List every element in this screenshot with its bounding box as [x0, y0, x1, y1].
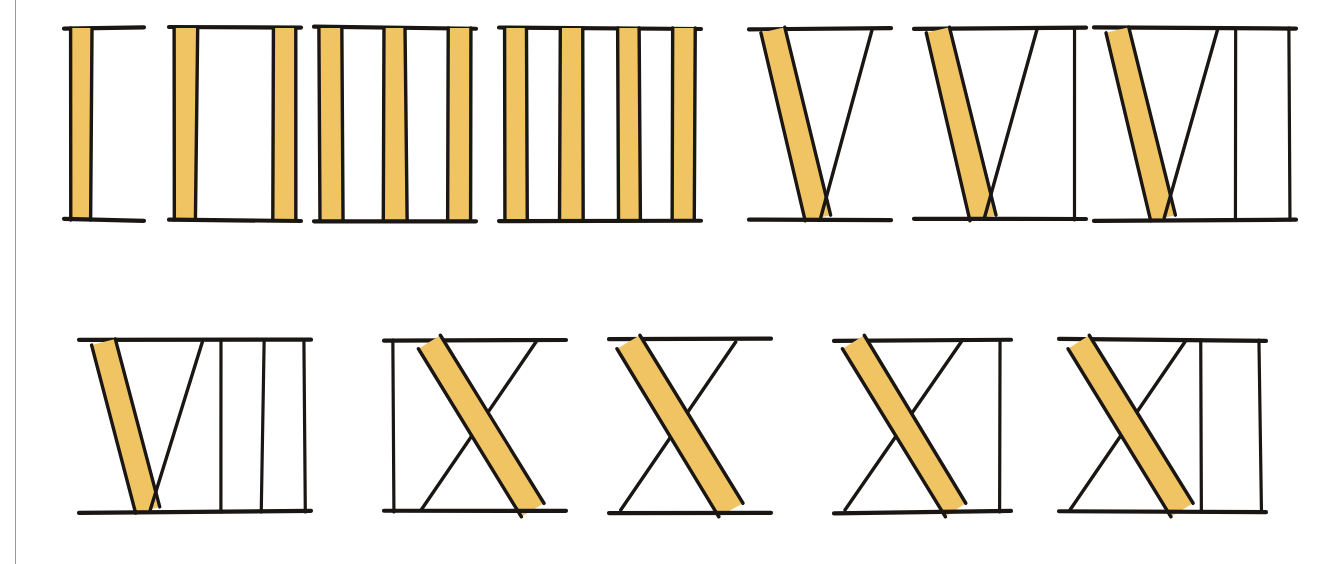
- roman-numeral-grid: [0, 0, 1334, 564]
- roman-numeral-v: [741, 14, 899, 234]
- roman-numeral-drawing: [1051, 326, 1274, 526]
- roman-numeral-vi: [906, 14, 1094, 234]
- roman-numeral-iiii: [491, 14, 709, 234]
- roman-numeral-xi: [826, 326, 1019, 526]
- roman-numeral-drawing: [161, 14, 309, 234]
- roman-numeral-drawing: [376, 326, 574, 526]
- roman-numeral-viii: [71, 326, 319, 526]
- roman-numeral-ix: [376, 326, 574, 526]
- roman-numeral-drawing: [741, 14, 899, 234]
- roman-numeral-drawing: [1086, 14, 1304, 234]
- roman-numeral-drawing: [906, 14, 1094, 234]
- roman-numeral-drawing: [306, 14, 484, 234]
- roman-numeral-drawing: [56, 14, 152, 234]
- roman-numeral-iii: [306, 14, 484, 234]
- roman-numeral-drawing: [601, 326, 779, 526]
- roman-numeral-x: [601, 326, 779, 526]
- roman-numeral-vii: [1086, 14, 1304, 234]
- roman-numeral-drawing: [71, 326, 319, 526]
- roman-numeral-drawing: [826, 326, 1019, 526]
- roman-numeral-drawing: [491, 14, 709, 234]
- roman-numeral-ii: [161, 14, 309, 234]
- roman-numeral-xii: [1051, 326, 1274, 526]
- illustration-page: [0, 0, 1334, 564]
- roman-numeral-i: [56, 14, 152, 234]
